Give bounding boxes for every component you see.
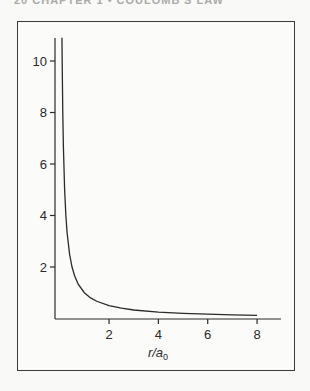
y-tick-label: 4 xyxy=(40,208,47,223)
chart-plot: 2468102468 r/a0 xyxy=(0,0,310,391)
axes xyxy=(55,38,281,319)
y-tick-label: 8 xyxy=(40,105,47,120)
y-tick-label: 2 xyxy=(40,260,47,275)
axis-ticks: 2468102468 xyxy=(33,54,261,343)
data-curve xyxy=(62,38,257,315)
x-tick-label: 8 xyxy=(253,327,260,342)
x-tick-label: 2 xyxy=(105,327,112,342)
y-tick-label: 10 xyxy=(33,54,47,69)
x-tick-label: 6 xyxy=(204,327,211,342)
x-axis-title: r/a0 xyxy=(148,345,168,362)
x-tick-label: 4 xyxy=(155,327,162,342)
y-tick-label: 6 xyxy=(40,157,47,172)
